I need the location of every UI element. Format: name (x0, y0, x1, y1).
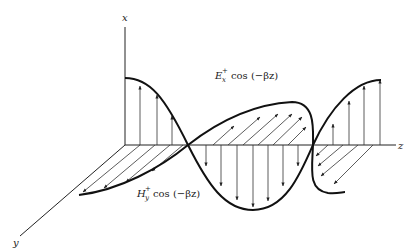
h-field-curve (79, 102, 345, 195)
wave-diagram: x z y E + x cos (−βz) H + y cos (−βz) (0, 0, 420, 248)
z-axis-label: z (397, 140, 404, 151)
e-field-label: E + x cos (−βz) (214, 67, 278, 84)
y-axis-label: y (12, 237, 19, 248)
svg-text:cos (−βz): cos (−βz) (231, 70, 278, 81)
y-axis (20, 145, 125, 236)
svg-text:cos (−βz): cos (−βz) (153, 188, 200, 199)
svg-text:+: + (145, 185, 151, 193)
h-field-label: H + y cos (−βz) (136, 185, 200, 202)
x-axis-label: x (122, 12, 128, 23)
h-field-arrows (83, 114, 373, 192)
svg-text:+: + (222, 67, 228, 75)
svg-text:x: x (222, 76, 226, 84)
svg-text:y: y (144, 194, 150, 202)
